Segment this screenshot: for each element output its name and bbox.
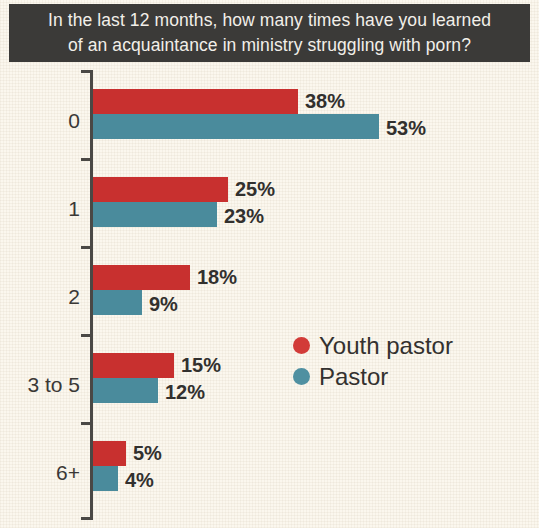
category-label-1: 1 — [0, 198, 80, 219]
bar-youth-4 — [93, 441, 126, 466]
category-label-3: 3 to 5 — [0, 374, 80, 395]
category-label-4: 6+ — [0, 462, 80, 483]
bar-pastor-1 — [93, 202, 217, 227]
bar-pastor-2 — [93, 290, 142, 315]
bar-value-pastor-3: 12% — [165, 380, 205, 405]
legend-dot-icon-pastor — [293, 368, 310, 385]
chart-title-banner: In the last 12 months, how many times ha… — [9, 4, 530, 62]
y-axis-tick-2 — [81, 246, 91, 249]
bar-youth-1 — [93, 177, 228, 202]
bar-value-youth-2: 18% — [197, 265, 237, 290]
y-axis-tick-3 — [81, 334, 91, 337]
bar-value-pastor-4: 4% — [125, 468, 154, 493]
y-axis-tick-top — [81, 70, 91, 73]
category-label-0: 0 — [0, 110, 80, 131]
bar-youth-3 — [93, 353, 174, 378]
bar-pastor-0 — [93, 114, 379, 139]
bar-pastor-3 — [93, 378, 158, 403]
bar-pastor-4 — [93, 466, 118, 491]
bar-value-pastor-0: 53% — [386, 116, 426, 141]
bar-value-youth-4: 5% — [133, 441, 162, 466]
bar-youth-0 — [93, 89, 298, 114]
y-axis-tick-bottom — [81, 517, 91, 520]
legend-item-youth-pastor: Youth pastor — [293, 330, 453, 361]
bar-value-pastor-1: 23% — [224, 204, 264, 229]
bar-youth-2 — [93, 265, 190, 290]
chart-legend: Youth pastor Pastor — [293, 330, 453, 392]
legend-label-youth-pastor: Youth pastor — [319, 333, 453, 359]
plot-area: 0 38% 53% 1 25% 23% 2 18% 9% 3 to 5 15% … — [0, 62, 539, 528]
bar-value-youth-0: 38% — [305, 89, 345, 114]
category-label-2: 2 — [0, 286, 80, 307]
chart-title-line-1: In the last 12 months, how many times ha… — [48, 8, 491, 33]
chart-figure: In the last 12 months, how many times ha… — [0, 0, 539, 528]
bar-value-pastor-2: 9% — [149, 292, 178, 317]
chart-title-line-2: of an acquaintance in ministry strugglin… — [68, 33, 471, 58]
y-axis-tick-1 — [81, 158, 91, 161]
bar-value-youth-3: 15% — [181, 353, 221, 378]
legend-dot-icon-youth-pastor — [293, 337, 310, 354]
legend-label-pastor: Pastor — [319, 364, 388, 390]
y-axis-tick-4 — [81, 422, 91, 425]
bar-value-youth-1: 25% — [235, 177, 275, 202]
legend-item-pastor: Pastor — [293, 361, 453, 392]
